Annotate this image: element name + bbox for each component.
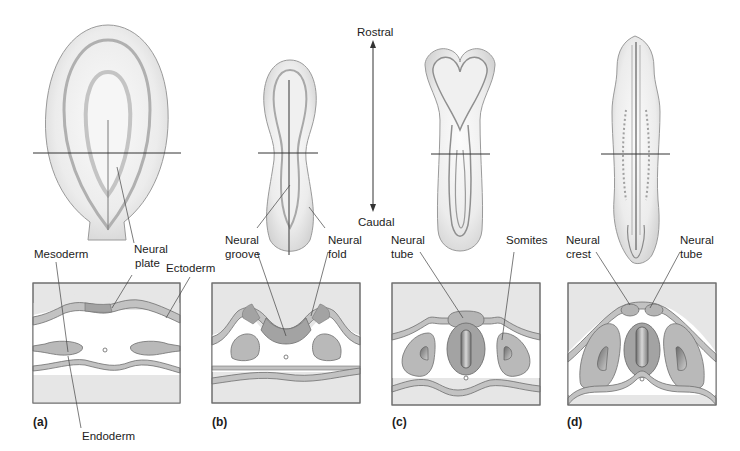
cross-section-b — [212, 283, 360, 403]
somites-label: Somites — [506, 234, 548, 247]
cross-section-c — [392, 283, 540, 405]
neural-fold-label-line1: Neural — [328, 234, 362, 247]
cross-section-d — [568, 283, 716, 405]
neurulation-figure: Rostral Caudal Mesoderm Neural plate Ect… — [0, 0, 740, 451]
embryo-b-illustration — [258, 60, 318, 255]
mesoderm-label: Mesoderm — [34, 248, 88, 261]
neural-crest-label-line2: crest — [566, 248, 591, 261]
caudal-label: Caudal — [358, 216, 394, 229]
panel-tag-c: (c) — [392, 415, 407, 429]
rostral-caudal-axis — [370, 40, 376, 212]
panel-tag-b: (b) — [212, 415, 227, 429]
neural-groove-label-line1: Neural — [225, 234, 259, 247]
panel-tag-d: (d) — [567, 415, 582, 429]
embryo-a-illustration — [33, 25, 181, 240]
neural-tube-label-d-line1: Neural — [680, 234, 714, 247]
endoderm-label: Endoderm — [82, 430, 135, 443]
panel-tag-a: (a) — [33, 415, 48, 429]
cross-section-a — [33, 283, 180, 403]
neural-crest-label-line1: Neural — [566, 234, 600, 247]
rostral-label: Rostral — [357, 26, 393, 39]
neural-tube-label-c-line2: tube — [391, 248, 413, 261]
embryo-c-illustration — [425, 49, 495, 251]
neural-plate-label-line1: Neural — [134, 243, 168, 256]
neural-fold-label-line2: fold — [328, 248, 347, 261]
neural-tube-label-d-line2: tube — [680, 248, 702, 261]
ectoderm-label: Ectoderm — [166, 262, 215, 275]
neural-tube-label-c-line1: Neural — [391, 234, 425, 247]
neural-groove-label-line2: groove — [225, 248, 260, 261]
embryo-d-illustration — [601, 36, 670, 264]
neural-plate-label-line2: plate — [135, 257, 160, 270]
